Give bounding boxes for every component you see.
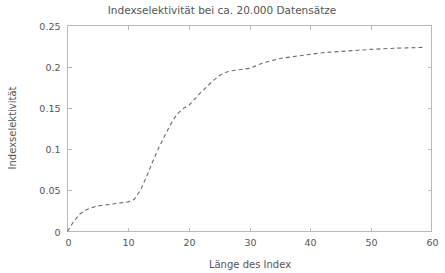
- x-tick-label: 20: [183, 237, 195, 248]
- chart-canvas: Indexselektivität bei ca. 20.000 Datensä…: [0, 0, 445, 273]
- x-tick-label: 60: [426, 237, 438, 248]
- y-axis-title: Indexselektivität: [7, 86, 18, 169]
- y-tick-label: 0.25: [39, 21, 60, 32]
- x-tick-label: 0: [65, 237, 71, 248]
- y-tick-label: 0.15: [39, 103, 60, 114]
- x-tick-label: 30: [244, 237, 256, 248]
- x-tick-label: 50: [365, 237, 377, 248]
- x-tick-label: 40: [304, 237, 316, 248]
- y-tick-label: 0.05: [39, 185, 60, 196]
- chart-background: [0, 0, 445, 273]
- chart-title: Indexselektivität bei ca. 20.000 Datensä…: [108, 4, 337, 16]
- y-tick-label: 0.1: [45, 144, 60, 155]
- x-axis-title: Länge des Index: [209, 259, 291, 270]
- y-tick-label: 0: [54, 227, 60, 238]
- chart-figure: Indexselektivität bei ca. 20.000 Datensä…: [0, 0, 445, 273]
- y-tick-label: 0.2: [45, 62, 60, 73]
- x-tick-label: 10: [122, 237, 134, 248]
